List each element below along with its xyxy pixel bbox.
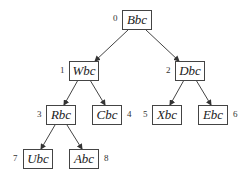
node-index: 7 (13, 153, 18, 163)
node-index: 4 (127, 109, 132, 119)
tree-node: Rbc (46, 105, 76, 125)
edge-2-6 (196, 80, 211, 105)
tree-node-root: Bbc (122, 10, 152, 30)
edge-1-3 (64, 80, 78, 105)
edge-2-5 (170, 80, 184, 105)
edge-0-1 (95, 30, 128, 61)
tree-node: Cbc (92, 105, 122, 125)
edge-3-7 (41, 125, 55, 149)
edge-0-2 (146, 30, 179, 61)
node-index: 6 (233, 109, 238, 119)
node-index: 2 (166, 65, 171, 75)
node-index: 3 (37, 109, 42, 119)
tree-node: Dbc (175, 61, 205, 81)
tree-node: Xbc (152, 105, 182, 125)
tree-node: Ebc (198, 105, 228, 125)
node-index: 5 (143, 109, 148, 119)
node-index: 0 (113, 13, 118, 23)
tree-node: Abc (69, 149, 99, 169)
edge-1-4 (90, 80, 105, 105)
node-index: 8 (104, 153, 109, 163)
edge-3-8 (67, 125, 82, 149)
tree-node: Ubc (23, 149, 53, 169)
node-index: 1 (60, 65, 65, 75)
tree-node: Wbc (69, 61, 99, 81)
